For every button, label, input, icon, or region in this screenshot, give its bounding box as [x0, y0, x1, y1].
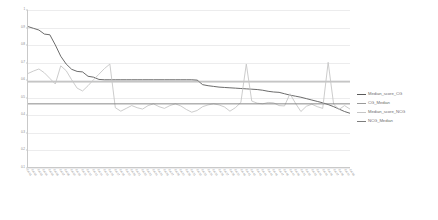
- legend-item-label: NCG_Median: [368, 119, 393, 123]
- series-line-median-score-cg: [28, 27, 350, 114]
- legend-item-label: CG_Median: [368, 101, 390, 105]
- legend-item[interactable]: CG_Median: [357, 99, 437, 108]
- series-plot: [28, 10, 350, 167]
- legend-item-label: Median_score_CG: [368, 92, 402, 96]
- legend-color-swatch: [357, 103, 366, 104]
- legend-item[interactable]: Median_score_CG: [357, 90, 437, 99]
- y-axis-tick-label: 0.3: [21, 131, 25, 134]
- series-line-median-score-ncg: [28, 62, 350, 112]
- y-axis-tick-label: 0.2: [21, 149, 25, 152]
- y-axis-tick-label: 0.5: [21, 96, 25, 99]
- y-axis-tick-label: 0.1: [21, 166, 25, 169]
- y-axis-tick-label: 1: [23, 8, 25, 11]
- legend-item[interactable]: NCG_Median: [357, 117, 437, 126]
- plot-area: 10.90.80.70.60.50.40.30.20.1: [27, 10, 350, 168]
- y-axis-tick-label: 0.6: [21, 79, 25, 82]
- legend-item-label: Median_score_NCG: [368, 110, 405, 114]
- y-axis-tick-label: 0.7: [21, 61, 25, 64]
- y-axis-tick-label: 0.8: [21, 44, 25, 47]
- x-axis-labels: Cat 01Cat 02Cat 03Cat 04Cat 05Cat 06Cat …: [27, 169, 350, 217]
- y-axis-tick-label: 0.9: [21, 26, 25, 29]
- legend-color-swatch: [357, 112, 366, 113]
- chart-legend: Median_score_CGCG_MedianMedian_score_NCG…: [357, 90, 437, 126]
- legend-color-swatch: [357, 121, 366, 122]
- chart-container: 10.90.80.70.60.50.40.30.20.1 Cat 01Cat 0…: [0, 0, 438, 220]
- legend-item[interactable]: Median_score_NCG: [357, 108, 437, 117]
- legend-color-swatch: [357, 94, 366, 95]
- y-axis-tick-label: 0.4: [21, 114, 25, 117]
